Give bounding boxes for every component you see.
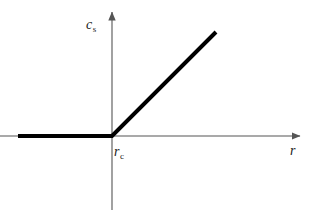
origin-threshold-label: rc (114, 145, 123, 159)
y-axis-label-subscript: s (93, 24, 97, 34)
origin-threshold-subscript: c (120, 151, 124, 161)
origin-threshold-symbol: r (114, 144, 119, 159)
x-axis-label-symbol: r (290, 143, 295, 158)
plot-svg (0, 0, 316, 216)
figure-canvas: cs rc r (0, 0, 316, 216)
y-axis-label: cs (86, 18, 96, 32)
y-axis-label-symbol: c (86, 17, 92, 32)
x-axis-label: r (290, 144, 295, 158)
curve-cs-of-r (18, 32, 216, 136)
